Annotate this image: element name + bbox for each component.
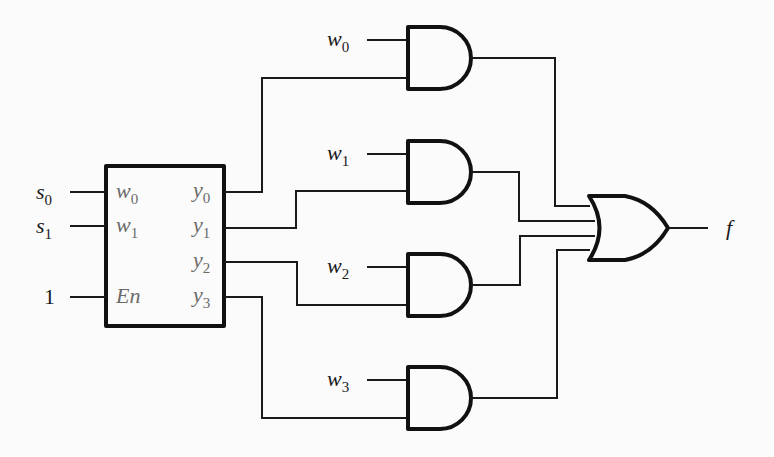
label-w1: w1	[327, 140, 349, 169]
wire-and1-to-or	[471, 172, 595, 221]
wire-y3-to-and3	[224, 297, 407, 418]
wire-and0-to-or	[471, 58, 590, 206]
wire-and3-to-or	[471, 250, 590, 398]
label-w3: w3	[327, 366, 349, 395]
label-f: f	[726, 215, 735, 240]
label-enable-value: 1	[44, 284, 55, 309]
label-w0: w0	[327, 26, 349, 55]
label-s1: s1	[36, 213, 52, 242]
wire-y0-to-and0	[224, 78, 407, 192]
circuit-svg: s0 s1 1 w0 w1 En y0 y1 y2 y3 w0 w1 w2 w3…	[0, 0, 774, 457]
pin-en: En	[115, 283, 140, 308]
wire-y1-to-and1	[224, 191, 407, 228]
and-gate-0	[408, 27, 471, 89]
or-gate	[589, 196, 668, 260]
mux-circuit-diagram: s0 s1 1 w0 w1 En y0 y1 y2 y3 w0 w1 w2 w3…	[0, 0, 774, 457]
wire-and2-to-or	[471, 236, 595, 285]
label-w2: w2	[327, 253, 349, 282]
and-gate-1	[408, 141, 471, 203]
and-gate-3	[408, 367, 471, 429]
wire-y2-to-and2	[224, 262, 407, 305]
and-gate-2	[408, 254, 471, 316]
label-s0: s0	[36, 179, 52, 208]
